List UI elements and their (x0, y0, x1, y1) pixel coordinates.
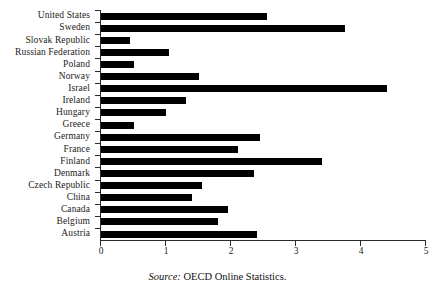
category-label: Sweden (0, 22, 96, 34)
category-label: Ireland (0, 95, 96, 107)
bar (101, 37, 130, 44)
bar-row (101, 71, 435, 83)
category-label: Norway (0, 71, 96, 83)
bar (101, 73, 199, 80)
category-axis-labels: United StatesSwedenSlovak RepublicRussia… (0, 10, 96, 240)
value-tick-label: 4 (359, 247, 364, 257)
bar (101, 49, 169, 56)
bar (101, 97, 186, 104)
bar (101, 61, 134, 68)
category-label: Hungary (0, 107, 96, 119)
category-label: Poland (0, 58, 96, 70)
bar (101, 13, 267, 20)
bar-row (101, 46, 435, 58)
bar-row (101, 143, 435, 155)
category-label: United States (0, 10, 96, 22)
source-label: Source: (149, 271, 181, 282)
value-tick-label: 0 (99, 247, 104, 257)
bar (101, 218, 218, 225)
plot-area: United StatesSwedenSlovak RepublicRussia… (0, 0, 435, 248)
category-label: Russian Federation (0, 46, 96, 58)
value-axis-line (100, 240, 426, 241)
bar-row (101, 131, 435, 143)
bar-row (101, 58, 435, 70)
category-label: Slovak Republic (0, 34, 96, 46)
bar-row (101, 228, 435, 240)
bars-container (101, 10, 435, 240)
bar-row (101, 119, 435, 131)
bar (101, 158, 322, 165)
bar (101, 170, 254, 177)
bar-row (101, 22, 435, 34)
category-label: Finland (0, 155, 96, 167)
category-label: Belgium (0, 216, 96, 228)
category-label: Denmark (0, 167, 96, 179)
source-caption: Source: OECD Online Statistics. (0, 271, 435, 282)
bar-row (101, 10, 435, 22)
category-label: Germany (0, 131, 96, 143)
value-tick-label: 3 (294, 247, 299, 257)
bar-row (101, 192, 435, 204)
value-tick-label: 2 (229, 247, 234, 257)
category-label: China (0, 192, 96, 204)
category-label: Czech Republic (0, 180, 96, 192)
bar (101, 146, 238, 153)
bar-row (101, 216, 435, 228)
category-label: Greece (0, 119, 96, 131)
bar (101, 122, 134, 129)
bar-row (101, 34, 435, 46)
bar (101, 206, 228, 213)
bar (101, 85, 387, 92)
bar-row (101, 83, 435, 95)
category-label: Austria (0, 228, 96, 240)
bar-row (101, 107, 435, 119)
value-tick-label: 1 (164, 247, 169, 257)
bar-row (101, 167, 435, 179)
bar (101, 109, 166, 116)
bar (101, 194, 192, 201)
bar-row (101, 95, 435, 107)
bar (101, 134, 260, 141)
value-tick-label: 5 (424, 247, 429, 257)
bar (101, 25, 345, 32)
source-text: OECD Online Statistics. (181, 271, 287, 282)
category-label: Israel (0, 83, 96, 95)
bar-row (101, 155, 435, 167)
category-label: Canada (0, 204, 96, 216)
bar-chart-figure: United StatesSwedenSlovak RepublicRussia… (0, 0, 435, 296)
bar (101, 231, 257, 238)
bar-row (101, 204, 435, 216)
bar (101, 182, 202, 189)
bar-row (101, 180, 435, 192)
category-label: France (0, 143, 96, 155)
